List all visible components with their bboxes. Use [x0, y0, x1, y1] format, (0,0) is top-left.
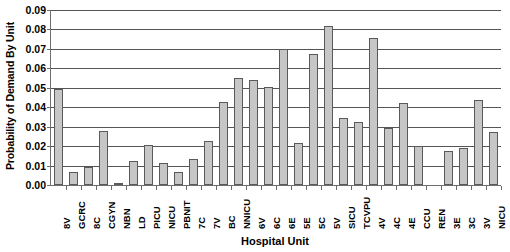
x-tick-label: 5V — [332, 217, 342, 229]
bars-container — [51, 10, 501, 185]
x-tick-label: 8V — [62, 217, 72, 229]
bar — [99, 131, 108, 185]
bar — [474, 100, 483, 185]
y-tick-label: 0.08 — [12, 24, 46, 34]
bar — [384, 128, 393, 185]
plot-area — [50, 10, 501, 186]
bar — [249, 80, 258, 185]
bar — [114, 183, 123, 185]
y-tick-label: 0.00 — [12, 180, 46, 190]
bar — [174, 172, 183, 185]
bar — [489, 132, 498, 185]
bar — [129, 161, 138, 185]
y-tick-label: 0.07 — [12, 44, 46, 54]
y-tick-label: 0.05 — [12, 83, 46, 93]
x-axis-title: Hospital Unit — [50, 234, 500, 248]
x-tick-label: 5E — [302, 217, 312, 229]
x-tick-label: NICU — [167, 206, 177, 229]
x-tick-label: CCU — [422, 208, 432, 229]
bar — [294, 143, 303, 185]
bar — [159, 163, 168, 185]
x-tick-label: PBNIT — [182, 201, 192, 230]
y-tick-mark — [47, 185, 51, 186]
y-tick-label: 0.09 — [12, 5, 46, 15]
bar — [189, 159, 198, 185]
bar — [324, 26, 333, 185]
bar — [264, 87, 273, 185]
x-tick-label: 6C — [272, 217, 282, 229]
x-tick-label: 7C — [197, 217, 207, 229]
x-tick-label: REN — [437, 209, 447, 229]
y-tick-label: 0.06 — [12, 63, 46, 73]
x-tick-label: 3C — [467, 217, 477, 229]
bar — [354, 122, 363, 185]
x-tick-label: 6E — [287, 217, 297, 229]
bar — [459, 148, 468, 185]
bar — [444, 151, 453, 185]
x-tick-label: 3V — [482, 217, 492, 229]
x-tick-label: NNICU — [242, 199, 252, 229]
x-tick-mark — [501, 186, 502, 190]
x-tick-label: GCRC — [77, 201, 87, 229]
x-axis-tick-labels: 8VGCRC8CCGYNNBNLDPICUNICUPBNIT7C7VBCNNIC… — [50, 187, 500, 231]
bar — [204, 141, 213, 185]
x-tick-label: 4E — [407, 217, 417, 229]
x-tick-label: 4V — [377, 217, 387, 229]
bar — [84, 167, 93, 185]
y-tick-label: 0.04 — [12, 102, 46, 112]
y-axis-tick-labels: 0.090.080.070.060.050.040.030.020.010.00 — [12, 10, 46, 185]
bar — [69, 172, 78, 185]
x-tick-label: 4C — [392, 217, 402, 229]
bar — [234, 78, 243, 185]
x-tick-label: 3E — [452, 217, 462, 229]
bar — [339, 118, 348, 185]
x-tick-label: 7V — [212, 217, 222, 229]
bar — [144, 145, 153, 185]
bar — [279, 49, 288, 185]
bar — [219, 102, 228, 185]
bar — [399, 103, 408, 185]
x-tick-label: NBN — [122, 208, 132, 229]
x-tick-label: PICU — [152, 206, 162, 229]
bar — [309, 54, 318, 185]
x-tick-label: 5C — [317, 217, 327, 229]
x-tick-label: TCVPU — [362, 197, 372, 229]
bar — [54, 89, 63, 185]
x-tick-label: NICU — [497, 206, 507, 229]
x-tick-label: 6V — [257, 217, 267, 229]
bar-chart: Probability of Demand By Unit 0.090.080.… — [0, 0, 510, 252]
bar — [369, 38, 378, 185]
x-tick-label: SICU — [347, 206, 357, 229]
x-tick-label: BC — [227, 215, 237, 229]
x-tick-label: CGYN — [107, 202, 117, 229]
y-tick-label: 0.01 — [12, 161, 46, 171]
bar — [414, 146, 423, 185]
y-tick-label: 0.02 — [12, 141, 46, 151]
x-tick-label: 8C — [92, 217, 102, 229]
y-tick-label: 0.03 — [12, 122, 46, 132]
x-tick-label: LD — [137, 216, 147, 229]
